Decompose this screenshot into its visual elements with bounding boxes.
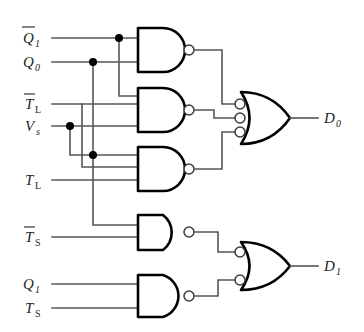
gate-nand-2[interactable] [138,88,194,132]
input-wires [52,38,138,308]
nand-3-output-bubble [184,164,194,174]
wire-nand5-to-or-d1 [194,280,236,296]
label-input-tl: T L [25,172,41,191]
label-d1-base: D [323,258,335,274]
or-d0-input-bubble-1 [235,99,245,109]
label-tbars-base: T [25,229,35,245]
or-d0-input-bubble-3 [235,127,245,137]
label-tl-base: T [25,172,35,188]
nand-5-output-bubble [184,291,194,301]
wire-nand4-to-or-d1 [194,232,236,252]
gate-nand-3[interactable] [138,147,194,191]
label-d0-base: D [323,110,335,126]
junction-q0 [89,58,97,66]
nand-1-body [138,28,185,72]
label-input-q1: Q 1 [23,276,40,295]
wire-nand3-to-or-d0 [194,132,236,169]
output-labels: D 0 D 1 [323,110,341,277]
label-qbar1-base: Q [23,30,34,46]
label-qbar1-sub: 1 [35,38,40,49]
gate-or-d0[interactable] [235,92,318,144]
nand-3-body [138,147,185,191]
label-d0-sub: 0 [336,118,341,129]
wire-q0-branch [93,62,138,225]
nand-2-output-bubble [184,105,194,115]
label-input-ts: T S [25,300,41,319]
label-d1-sub: 1 [336,266,341,277]
d1-interconnect-wires [194,232,236,296]
gate-nand-4[interactable] [138,215,194,250]
or-d0-body [241,92,290,144]
or-d1-body [241,242,290,290]
label-tbars-sub: S [35,237,41,248]
nand-1-output-bubble [184,45,194,55]
label-tbarl-base: T [25,96,35,112]
label-input-q0: Q 0 [23,54,40,73]
gate-nand-1[interactable] [138,28,194,72]
d0-interconnect-wires [194,50,236,169]
label-q0-base: Q [23,54,34,70]
or-d1-input-bubble-2 [235,275,245,285]
wire-nand2-to-or-d0 [194,110,236,118]
nand-4-output-bubble [184,227,194,237]
or-d1-input-bubble-1 [235,247,245,257]
label-q1-base: Q [23,276,34,292]
label-tl-sub: L [35,180,41,191]
label-input-qbar1: Q 1 [22,27,40,49]
label-ts-base: T [25,300,35,316]
label-input-tbars: T S [24,227,41,248]
label-input-vs: V s [25,118,40,137]
wire-nand1-to-or-d0 [194,50,236,104]
routing-wires [70,38,138,225]
label-q0-sub: 0 [35,62,40,73]
label-tbarl-sub: L [35,104,41,115]
label-ts-sub: S [35,308,41,319]
gate-nand-5[interactable] [138,275,194,317]
label-output-d0: D 0 [323,110,341,129]
nand-5-body [138,275,178,317]
junction-qbar1 [115,34,123,42]
logic-circuit-diagram: Q 1 Q 0 T L V s T L T S [0,0,364,332]
input-labels: Q 1 Q 0 T L V s T L T S [22,27,41,319]
label-q1-sub: 1 [35,284,40,295]
wire-qbar1-branch [119,38,138,96]
nand-4-body [138,215,172,250]
label-output-d1: D 1 [323,258,341,277]
label-input-tbarl: T L [24,94,41,115]
or-d0-input-bubble-2 [235,113,245,123]
wire-vs-branch [70,126,138,155]
junction-vs-gate3 [89,151,97,159]
gate-or-d1[interactable] [235,242,318,290]
junction-dots [66,34,123,159]
nand-2-body [138,88,185,132]
junction-vs [66,122,74,130]
label-vs-base: V [25,118,36,134]
label-vs-sub: s [36,126,40,137]
circuit-canvas: Q 1 Q 0 T L V s T L T S [0,0,364,332]
